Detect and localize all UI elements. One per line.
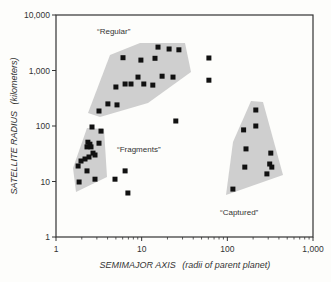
x-tick-label: 1,000 [302,244,324,254]
data-point [97,141,102,146]
scatter-chart: “Regular”“Fragments”“Captured” 1101001,0… [0,0,331,282]
data-point [206,56,211,61]
region-label: “Captured” [220,208,259,217]
data-point [206,78,211,83]
data-point [241,127,246,132]
data-point [160,74,165,79]
x-tick-label: 1 [54,244,59,254]
data-point [150,83,155,88]
x-tick-label: 100 [220,244,234,254]
region-label: “Regular” [97,27,131,36]
x-axis-label: SEMIMAJOR AXIS (radii of parent planet) [100,260,271,270]
data-point [123,82,128,87]
data-point [113,177,118,182]
data-point [90,125,95,130]
data-point [115,102,120,107]
data-point [105,101,110,106]
region-polygon [226,101,283,195]
data-point [141,82,146,87]
y-axis-label: SATELLITE RADIUS (kilometers) [9,58,19,195]
y-tick-label: 10 [41,177,51,187]
data-point [253,108,258,113]
data-point [264,171,269,176]
data-point [268,151,273,156]
data-point [167,47,172,52]
y-tick-label: 10,000 [24,10,50,20]
data-point [85,168,90,173]
data-point [253,124,258,129]
y-tick-label: 1 [45,232,50,242]
y-tick-label: 1,000 [29,66,51,76]
data-point [138,58,143,63]
data-point [173,119,178,124]
y-tick-label: 100 [36,121,50,131]
data-point [129,82,134,87]
data-point [244,146,249,151]
data-point [113,85,118,90]
data-point [85,144,90,149]
data-point [93,153,98,158]
data-point [77,180,82,185]
data-point [97,109,102,114]
x-tick-label: 10 [137,244,147,254]
data-point [153,56,158,61]
data-point [176,47,181,52]
data-point [99,129,104,134]
data-point [121,55,126,60]
data-point [79,159,84,164]
x-axis-ticks: 1101001,000 [54,237,324,254]
data-point [242,165,247,170]
region-polygon [88,43,191,117]
data-point [230,187,235,192]
data-point [123,168,128,173]
y-axis-ticks: 1101001,00010,000 [24,10,56,242]
data-point [93,177,98,182]
data-point [76,164,81,169]
data-point [125,191,130,196]
region-label: “Fragments” [117,145,161,154]
data-point [171,75,176,80]
data-point [269,165,274,170]
data-point [156,45,161,50]
data-point [136,75,141,80]
